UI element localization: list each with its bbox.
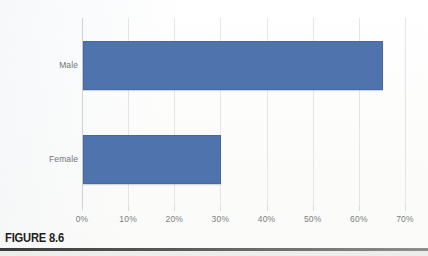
x-axis-tick-label: 60% [350,214,368,224]
bar-male [83,41,383,90]
figure-caption: FIGURE 8.6 [5,231,64,245]
gridline [405,18,406,206]
category-label-male: Male [2,60,78,70]
x-axis-tick-label: 30% [212,214,230,224]
x-axis-tick-label: 20% [165,214,183,224]
x-axis-tick-label: 10% [119,214,137,224]
bar-female [83,135,221,184]
x-axis-tick [359,206,360,211]
x-axis-tick [174,206,175,211]
x-axis-tick [313,206,314,211]
x-axis-tick-label: 70% [396,214,414,224]
x-axis-tick [82,206,83,211]
plot-area: 0%10%20%30%40%50%60%70%MaleFemale [82,18,405,206]
category-label-female: Female [2,154,78,164]
caption-rule-secondary [0,251,428,256]
bar-chart: 0%10%20%30%40%50%60%70%MaleFemale [0,0,428,228]
x-axis-tick [405,206,406,211]
x-axis-tick [128,206,129,211]
x-axis-tick [267,206,268,211]
x-axis-tick-label: 50% [304,214,322,224]
x-axis-tick-label: 40% [258,214,276,224]
x-axis-tick-label: 0% [76,214,89,224]
x-axis-tick [220,206,221,211]
